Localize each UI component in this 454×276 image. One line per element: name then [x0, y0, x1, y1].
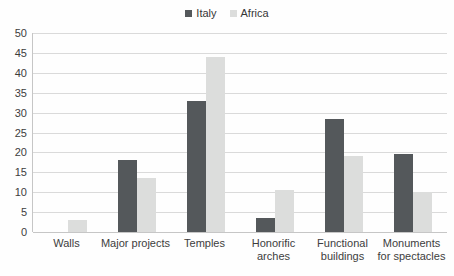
bar-group-3 — [171, 33, 240, 232]
bar-italy-4 — [256, 218, 275, 232]
legend-item-italy: Italy — [185, 7, 216, 19]
chart-legend: Italy Africa — [0, 7, 454, 19]
plot-area — [32, 33, 447, 232]
bar-group-4 — [240, 33, 309, 232]
bar-group-5 — [309, 33, 378, 232]
y-axis-tick-40: 40 — [0, 67, 27, 80]
y-axis-tick-15: 15 — [0, 166, 27, 179]
legend-label-africa: Africa — [241, 7, 269, 19]
legend-label-italy: Italy — [196, 7, 216, 19]
bar-africa-3 — [206, 57, 225, 232]
bar-italy-5 — [325, 119, 344, 232]
bar-group-1 — [33, 33, 102, 232]
legend-swatch-africa — [230, 10, 237, 17]
bar-italy-2 — [118, 160, 137, 232]
y-axis-tick-35: 35 — [0, 87, 27, 100]
y-axis-tick-30: 30 — [0, 107, 27, 120]
bar-africa-1 — [68, 220, 87, 232]
bar-group-2 — [102, 33, 171, 232]
bar-africa-5 — [344, 156, 363, 232]
legend-item-africa: Africa — [230, 7, 269, 19]
bar-italy-3 — [187, 101, 206, 232]
y-axis-tick-50: 50 — [0, 27, 27, 40]
y-axis-tick-5: 5 — [0, 206, 27, 219]
y-axis-tick-25: 25 — [0, 127, 27, 140]
bar-italy-6 — [394, 154, 413, 232]
bar-africa-6 — [413, 192, 432, 232]
y-axis-tick-10: 10 — [0, 186, 27, 199]
bar-group-6 — [378, 33, 447, 232]
y-axis-tick-45: 45 — [0, 47, 27, 60]
bar-chart: Italy Africa 05101520253035404550 WallsM… — [0, 0, 454, 276]
gridline-0 — [33, 232, 447, 233]
bar-africa-2 — [137, 178, 156, 232]
legend-swatch-italy — [185, 10, 192, 17]
y-axis-tick-20: 20 — [0, 146, 27, 159]
bar-africa-4 — [275, 190, 294, 232]
x-axis-label-6: Monuments for spectacles — [366, 237, 454, 263]
